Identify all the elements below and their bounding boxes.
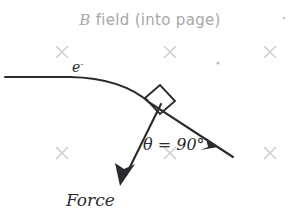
electron-label: e- xyxy=(72,59,84,75)
field-cross-marker xyxy=(57,47,68,58)
field-cross-marker xyxy=(165,47,176,58)
physics-diagram-canvas: B field (into page) xyxy=(0,0,300,220)
force-label: Force xyxy=(65,190,115,210)
field-cross-marker xyxy=(57,148,68,159)
speck-mark xyxy=(217,62,220,65)
force-vector-arrowhead xyxy=(115,163,135,186)
angle-label: θ = 90° xyxy=(143,135,205,154)
title-rest: field (into page) xyxy=(91,11,221,29)
diagram-title: B field (into page) xyxy=(78,11,220,29)
diagram-svg: B field (into page) xyxy=(0,0,300,220)
electron-label-base: e xyxy=(72,59,80,75)
field-cross-marker xyxy=(265,47,276,58)
title-b-symbol: B xyxy=(78,11,90,29)
field-cross-marker xyxy=(265,148,276,159)
speck-mark xyxy=(283,17,285,19)
electron-charge-superscript: - xyxy=(80,59,83,69)
